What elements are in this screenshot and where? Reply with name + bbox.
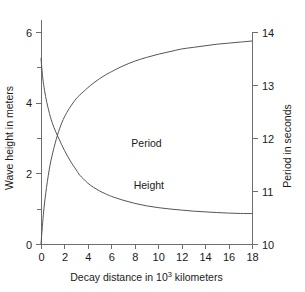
x-axis-tick-label: 14	[199, 251, 211, 263]
x-axis-tick-label: 8	[132, 251, 138, 263]
right-axis-tick-label: 11	[262, 186, 273, 198]
x-axis-tick-label: 10	[153, 251, 165, 263]
curve-label-height: Height	[134, 179, 164, 191]
x-axis-title: Decay distance in 103 kilometers	[70, 270, 222, 283]
right-axis-tick-label: 12	[262, 133, 274, 145]
right-axis-title: Period in seconds	[281, 104, 293, 187]
left-axis-title: Wave height in meters	[3, 86, 15, 190]
x-axis-tick-label: 16	[223, 251, 235, 263]
x-axis-tick-label: 2	[62, 251, 68, 263]
x-axis-tick-label: 6	[109, 251, 115, 263]
right-axis-tick-label: 13	[262, 80, 274, 92]
right-axis-tick-label: 10	[262, 239, 274, 251]
left-axis-tick-label: 0	[26, 239, 32, 251]
x-axis-tick-label: 12	[176, 251, 188, 263]
x-axis-tick-label: 4	[85, 251, 91, 263]
x-axis-tick-label: 0	[38, 251, 44, 263]
left-axis-tick-label: 2	[26, 168, 32, 180]
wave-decay-chart: 0246 1011121314 024681012141618 PeriodHe…	[0, 0, 305, 292]
curve-label-period: Period	[131, 137, 162, 149]
chart-figure: 0246 1011121314 024681012141618 PeriodHe…	[0, 0, 305, 292]
left-axis-tick-label: 4	[26, 97, 32, 109]
x-axis-tick-label: 18	[246, 251, 258, 263]
right-axis-tick-label: 14	[262, 27, 274, 39]
left-axis-tick-label: 6	[26, 27, 32, 39]
